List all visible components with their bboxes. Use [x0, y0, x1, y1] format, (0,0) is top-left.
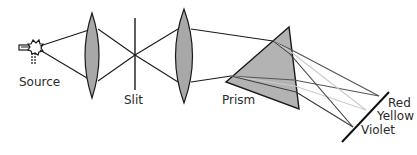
prism-label: Prism: [222, 94, 255, 106]
dispersed-rays: [288, 48, 379, 127]
slit-label: Slit: [124, 94, 143, 106]
source-label: Source: [19, 76, 60, 88]
yellow-label: Yellow: [377, 110, 414, 122]
focusing-lens: [176, 9, 193, 103]
red-label: Red: [388, 97, 411, 109]
spectroscope-diagram: Source Slit Prism Red Yellow Violet: [0, 0, 417, 155]
diagram-canvas: [0, 0, 417, 155]
collimating-lens: [85, 13, 99, 98]
light-source-icon: [19, 40, 43, 64]
violet-label: Violet: [361, 124, 395, 136]
